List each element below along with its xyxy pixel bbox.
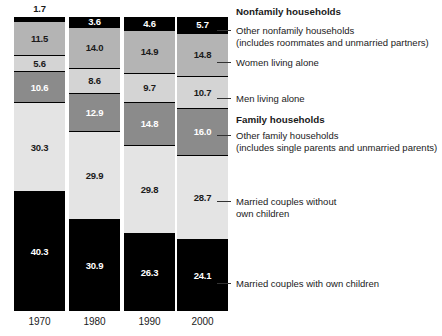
segment-value-label: 12.9 [86,108,104,118]
legend-item: Other family households(includes single … [236,130,442,153]
segment-value-label: 14.8 [194,50,212,60]
bar-segment: 4.6 [124,17,175,31]
legend-item: Men living alone [236,93,442,105]
bar-segment: 3.6 [69,17,120,28]
bar-segment: 5.6 [14,56,65,72]
legend-label: Married couples without [236,196,336,207]
segment-value-label: 29.9 [86,171,104,181]
x-axis-tick-1970: 1970 [14,317,65,327]
bar-segment: 10.6 [14,72,65,103]
legend-leader-line [217,135,231,136]
bar-segment: 40.3 [14,192,65,310]
segment-value-label: 3.6 [88,17,101,27]
segment-value-label: 8.6 [88,76,101,86]
bar-segment: 12.9 [69,94,120,132]
segment-value-label: 29.8 [141,185,159,195]
legend-label: Other nonfamily households [236,25,354,36]
bar-segment: 9.7 [124,74,175,103]
bar-segment: 11.5 [14,22,65,56]
segment-value-label: 28.7 [194,193,212,203]
bar-segment: 30.9 [69,220,120,311]
bar-segment: 30.3 [14,103,65,192]
legend-label: Family households [236,114,325,125]
segment-value-label: 14.0 [86,43,104,53]
segment-value-label: 16.0 [194,127,212,137]
segment-value-label: 40.3 [31,247,49,257]
legend-label: Married couples with own children [236,278,379,289]
segment-value-label: 14.8 [141,119,159,129]
segment-value-label: 30.3 [31,143,49,153]
legend-item: Women living alone [236,57,442,69]
x-axis-tick-1980: 1980 [69,317,120,327]
legend-leader-line [217,201,231,202]
segment-value-label: 24.1 [194,271,212,281]
legend-item: Other nonfamily households(includes room… [236,25,442,48]
plot-area: 11.55.610.630.340.31.719703.614.08.612.9… [0,0,215,336]
legend-leader-line [217,283,231,284]
x-axis-tick-1990: 1990 [124,317,175,327]
bar-segment: 14.9 [124,31,175,75]
segment-value-label: 14.9 [141,47,159,57]
bar-1970: 11.55.610.630.340.3 [14,17,65,311]
segment-value-label: 11.5 [31,34,48,44]
legend-leader-line [217,62,231,63]
bar-segment: 26.3 [124,234,175,311]
segment-value-label: 30.9 [86,261,104,271]
legend-sublabel: (includes single parents and unmarried p… [236,142,442,154]
bar-segment: 14.0 [69,28,120,69]
bar-segment: 14.8 [124,103,175,147]
legend-item: Married couples with own children [236,278,442,290]
legend-label: Women living alone [236,57,319,68]
bar-segment: 29.9 [69,132,120,220]
bar-segment: 29.8 [124,146,175,234]
legend-label: Other family households [236,130,338,141]
bar-segment: 8.6 [69,69,120,94]
segment-value-label: 5.7 [196,20,209,30]
segment-value-label-above: 1.7 [14,4,65,14]
legend-label: Men living alone [236,93,305,104]
segment-value-label: 26.3 [141,268,159,278]
segment-value-label: 5.6 [33,59,46,69]
legend-sublabel: (includes roommates and unmarried partne… [236,37,442,49]
legend-group-heading: Nonfamily households [236,6,442,18]
legend-label: Nonfamily households [236,6,341,17]
segment-value-label: 10.6 [31,83,49,93]
bar-1980: 3.614.08.612.929.930.9 [69,17,120,311]
segment-value-label: 9.7 [143,83,156,93]
legend-leader-line [217,30,231,31]
legend-sublabel: own children [236,208,442,220]
chart-legend: Nonfamily householdsOther nonfamily hous… [215,0,430,336]
bar-1990: 4.614.99.714.829.826.3 [124,17,175,311]
segment-value-label: 4.6 [143,19,156,29]
legend-leader-line [217,98,231,99]
legend-group-heading: Family households [236,114,442,126]
legend-item: Married couples withoutown children [236,196,442,219]
segment-value-label: 10.7 [194,88,212,98]
